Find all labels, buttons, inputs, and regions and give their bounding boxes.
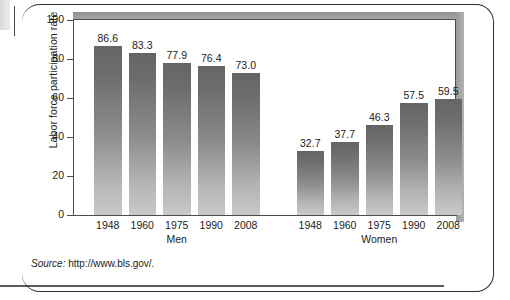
scanned-page: Labor force participation rate 020406080… [0,0,510,300]
y-axis-tick-mark [67,176,73,177]
bar-slot: 77.9 [163,20,191,215]
bar-value-label: 73.0 [222,59,270,71]
page-edge-shading [0,0,10,30]
bar-slot: 46.3 [366,20,394,215]
bar [435,99,463,215]
y-axis-tick-label: 80 [52,52,64,64]
y-axis-tick-mark [67,98,73,99]
source-note: Source: http://www.bls.gov/. [31,258,154,269]
bar-slot: 32.7 [297,20,325,215]
y-axis-tick-label: 100 [46,13,64,25]
bar [129,53,157,215]
y-axis-tick-label: 40 [52,130,64,142]
x-axis-tick-label: 2008 [226,219,266,231]
x-axis-tick-label: 2008 [428,219,468,231]
bar [297,151,325,215]
bar [163,63,191,215]
bar-slot: 57.5 [400,20,428,215]
bar [198,66,226,215]
bar-slot: 37.7 [331,20,359,215]
bar [94,46,122,215]
bar-slot: 76.4 [198,20,226,215]
plot-shadow-top [73,12,463,19]
x-axis-group-label: Men [137,233,217,245]
y-axis-tick-mark [67,59,73,60]
y-axis-ticks: 020406080100 [28,12,73,222]
bar [232,73,260,215]
bars-layer: 86.683.377.976.473.032.737.746.357.559.5 [74,20,456,215]
x-axis-line [73,215,457,216]
y-axis-tick-label: 20 [52,169,64,181]
bar-value-label: 37.7 [321,128,369,140]
y-axis-tick-mark [67,20,73,21]
bar-value-label: 46.3 [356,111,404,123]
bar-slot: 59.5 [435,20,463,215]
bar-slot: 73.0 [232,20,260,215]
y-axis-tick-mark [67,137,73,138]
bar [331,142,359,216]
y-axis-tick-label: 60 [52,91,64,103]
y-axis-tick-label: 0 [58,208,64,220]
bar-value-label: 59.5 [425,85,473,97]
bar-slot: 86.6 [94,20,122,215]
bar [366,125,394,215]
page-gutter-rule [14,6,15,36]
bar-chart: Labor force participation rate 020406080… [28,12,472,244]
source-url: http://www.bls.gov/. [68,258,154,269]
source-prefix: Source: [31,258,65,269]
x-axis-group-label: Women [339,233,419,245]
x-axis-group-labels: MenWomen [74,233,456,249]
bar-slot: 83.3 [129,20,157,215]
bar [400,103,428,215]
